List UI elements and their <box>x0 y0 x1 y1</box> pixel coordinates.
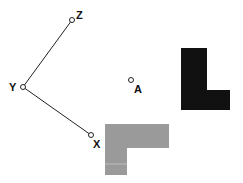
point-a <box>129 78 134 83</box>
geometry-diagram: Z Y X A <box>0 0 243 183</box>
segment-yx <box>23 87 91 135</box>
gray-l-shape <box>105 124 169 175</box>
point-y <box>21 85 26 90</box>
black-l-shape <box>181 48 230 110</box>
segment-yz <box>23 20 72 87</box>
point-z <box>70 18 75 23</box>
label-x: X <box>93 138 101 150</box>
point-x <box>89 133 94 138</box>
label-a: A <box>134 83 142 95</box>
label-y: Y <box>9 81 17 93</box>
label-z: Z <box>76 9 83 21</box>
